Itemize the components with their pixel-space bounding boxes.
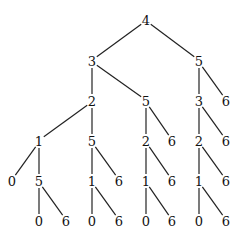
tree-edge (149, 187, 168, 215)
tree-node: 6 (115, 174, 123, 189)
tree-node: 6 (168, 134, 176, 149)
tree-node: 5 (88, 134, 96, 149)
tree-edge (149, 147, 168, 175)
tree-diagram: 43525361526260516161606060606 (0, 0, 244, 240)
tree-node: 1 (142, 174, 150, 189)
tree-node: 5 (195, 54, 203, 69)
tree-node: 6 (62, 214, 70, 229)
tree-node: 6 (168, 174, 176, 189)
tree-node: 6 (222, 94, 230, 109)
tree-node: 2 (88, 94, 96, 109)
tree-node: 2 (195, 134, 203, 149)
tree-node: 1 (88, 174, 96, 189)
tree-edge (202, 107, 222, 135)
tree-node: 2 (142, 134, 150, 149)
tree-edge (202, 187, 222, 215)
tree-node: 5 (142, 94, 150, 109)
tree-node: 0 (88, 214, 96, 229)
tree-edge (97, 65, 141, 97)
tree-edge (149, 107, 168, 135)
tree-nodes: 43525361526260516161606060606 (8, 13, 230, 229)
tree-edge (15, 147, 35, 175)
tree-node: 0 (142, 214, 150, 229)
tree-node: 3 (195, 94, 203, 109)
tree-node: 3 (88, 54, 96, 69)
tree-node: 6 (222, 214, 230, 229)
tree-node: 6 (222, 174, 230, 189)
tree-edge (95, 187, 115, 215)
tree-node: 1 (35, 134, 43, 149)
tree-edge (42, 187, 62, 215)
tree-node: 0 (8, 174, 16, 189)
tree-node: 6 (168, 214, 176, 229)
tree-edge (202, 67, 222, 95)
tree-edge (202, 147, 222, 175)
tree-node: 1 (195, 174, 203, 189)
tree-node: 5 (35, 174, 43, 189)
tree-node: 6 (115, 214, 123, 229)
tree-node: 6 (222, 134, 230, 149)
tree-node: 0 (195, 214, 203, 229)
tree-node: 0 (35, 214, 43, 229)
tree-edge (151, 24, 195, 56)
tree-edge (44, 105, 87, 137)
tree-edge (97, 24, 141, 57)
tree-node: 4 (142, 13, 150, 28)
tree-edge (95, 147, 115, 175)
